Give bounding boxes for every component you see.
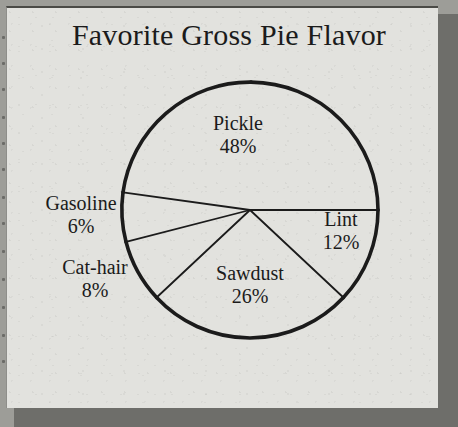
slice-edge-pickle-end	[123, 192, 250, 210]
slice-name-cathair: Cat-hair	[32, 256, 158, 279]
slice-edge-gasoline-end	[126, 210, 250, 242]
slice-name-gasoline: Gasoline	[20, 192, 142, 215]
screenshot-root: Favorite Gross Pie Flavor Pickle 48%	[0, 0, 458, 427]
slice-label-cathair: Cat-hair 8%	[32, 256, 158, 302]
slice-label-sawdust: Sawdust 26%	[180, 262, 320, 308]
slice-percent-sawdust: 26%	[180, 285, 320, 308]
slice-name-lint: Lint	[298, 208, 384, 231]
slice-label-pickle: Pickle 48%	[168, 112, 308, 158]
slice-label-lint: Lint 12%	[298, 208, 384, 254]
slice-name-pickle: Pickle	[168, 112, 308, 135]
slice-percent-gasoline: 6%	[20, 215, 142, 238]
slice-percent-pickle: 48%	[168, 135, 308, 158]
slice-name-sawdust: Sawdust	[180, 262, 320, 285]
slice-label-gasoline: Gasoline 6%	[20, 192, 142, 238]
slice-percent-cathair: 8%	[32, 279, 158, 302]
slice-percent-lint: 12%	[298, 231, 384, 254]
